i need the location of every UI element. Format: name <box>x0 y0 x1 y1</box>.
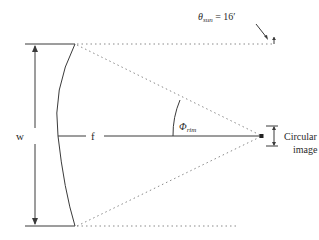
arrow-down-icon <box>32 218 38 225</box>
arrow-up-icon <box>32 45 38 52</box>
sun-image-label-line2: image <box>293 144 318 155</box>
theta-sun-label: θsun = 16′ <box>198 11 235 24</box>
rim-angle-label: Φrim <box>179 121 196 134</box>
trough-diagram: θsun = 16′ w f Φrim Circular sun image <box>0 0 319 240</box>
arrow-up-icon <box>272 126 276 130</box>
sun-image-label-line1: Circular sun <box>284 131 319 142</box>
width-label: w <box>16 130 24 142</box>
lower-converging-ray <box>77 136 262 226</box>
arrow-up-icon <box>272 37 276 40</box>
focal-point <box>260 134 264 138</box>
arrow-down-icon <box>272 142 276 146</box>
upper-converging-ray <box>77 45 262 136</box>
focal-length-label: f <box>91 130 95 142</box>
mirror-curve <box>57 44 75 226</box>
